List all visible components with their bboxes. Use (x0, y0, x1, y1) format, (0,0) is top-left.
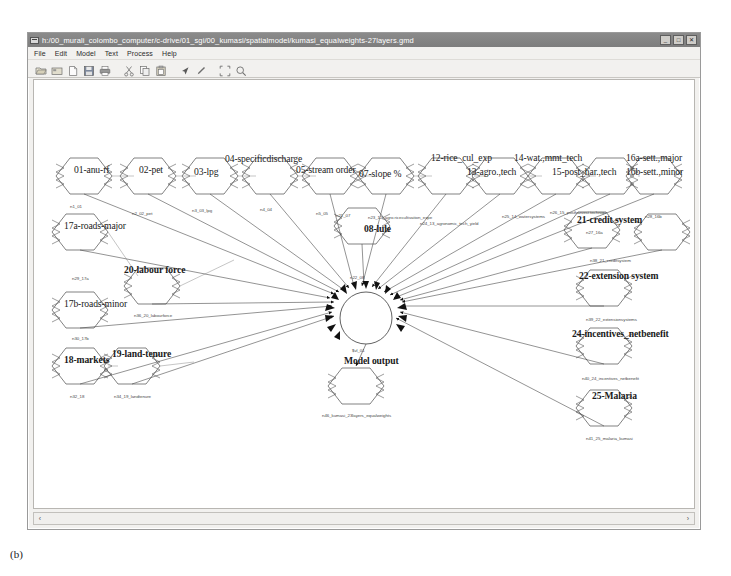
node-id-04: n4_04 (260, 207, 272, 212)
pen-icon[interactable] (195, 63, 207, 75)
model-output-label: Model output (344, 355, 399, 366)
node-label-17a: 17a-roads-major (64, 220, 126, 231)
save-icon[interactable] (83, 63, 95, 75)
node-id-02: n2_02_pet (132, 211, 152, 216)
node-id-15: n26_15_postharvest.techniqu (550, 210, 606, 215)
zoom-icon[interactable] (235, 63, 247, 75)
diagram-surface[interactable]: 01-anu-rf 02-pet 03-lpg 04-specificdisch… (34, 80, 694, 508)
node-id-16a: n27_16a (586, 230, 603, 235)
menu-item-help[interactable]: Help (162, 50, 177, 57)
node-label-05: 05-stream order (296, 164, 356, 175)
node-id-08: n22_08 (350, 275, 364, 280)
node-label-22: 22-extension system (579, 270, 658, 281)
scroll-right-arrow[interactable]: › (682, 515, 694, 522)
node-id-17a: n29_17a (72, 276, 89, 281)
copy-icon[interactable] (139, 63, 151, 75)
menu-bar: File Edit Model Text Process Help (28, 47, 700, 60)
node-id-18: n32_18 (70, 394, 84, 399)
application-window-icon (30, 36, 39, 45)
node-label-13: 13-agro.,tech (467, 166, 516, 177)
node-id-24: n40_24_incentives_netbenefit (582, 376, 639, 381)
node-label-16a: 16a-sett.,major (626, 152, 682, 163)
hub-node-label: $vl_01 (352, 348, 365, 353)
node-id-21: n38_21_creditsystem (590, 258, 631, 263)
cut-icon[interactable] (123, 63, 135, 75)
application-window: h:/00_murali_colombo_computer/c-drive/01… (27, 32, 701, 530)
node-label-24: 24-incentives_netbenefit (572, 328, 669, 339)
node-label-03: 03-lpg (194, 166, 218, 177)
node-id-05: n5_05 (316, 211, 328, 216)
menu-item-file[interactable]: File (34, 50, 46, 57)
toolbar (28, 60, 700, 78)
node-label-21: 21-credit system (577, 214, 642, 225)
pointer-arrow-icon[interactable] (179, 63, 191, 75)
node-label-01: 01-anu-rf (74, 164, 109, 175)
node-label-12: 12-rice_cul_exp (431, 152, 492, 163)
node-id-19: n34_19_landtenure (114, 394, 151, 399)
menu-item-edit[interactable]: Edit (55, 50, 67, 57)
diagram-graphics (34, 80, 695, 508)
print-icon[interactable] (99, 63, 111, 75)
new-document-icon[interactable] (67, 63, 79, 75)
title-bar[interactable]: h:/00_murali_colombo_computer/c-drive/01… (28, 33, 700, 47)
horizontal-scrollbar[interactable]: ‹ › (33, 512, 695, 525)
node-id-16b: n28_16b (645, 214, 662, 219)
node-id-20: n36_20_labourforce (134, 313, 172, 318)
figure-caption: (b) (10, 548, 23, 560)
node-id-13: n24_13_agronomic_tech_yield (420, 221, 478, 226)
node-label-20: 20-labour force (124, 264, 185, 275)
node-id-12: n23_12_agro.ricecultivation_expe (368, 215, 432, 220)
node-label-14: 14-wat.,mmt_tech (514, 152, 582, 163)
open-folder-icon[interactable] (35, 63, 47, 75)
menu-item-process[interactable]: Process (127, 50, 153, 57)
node-id-17b: n30_17b (72, 336, 89, 341)
node-label-02: 02-pet (139, 164, 163, 175)
node-label-08: 08-lule (364, 223, 391, 234)
minimize-button[interactable]: _ (660, 35, 671, 45)
menu-item-model[interactable]: Model (76, 50, 96, 57)
node-label-04: 04-specificdischarge (225, 153, 302, 164)
node-id-03: n3_03_lpg (192, 208, 212, 213)
node-id-25: n41_25_malaria_kumasi (586, 436, 633, 441)
maximize-button[interactable]: □ (673, 35, 684, 45)
scroll-left-arrow[interactable]: ‹ (34, 515, 46, 522)
paste-icon[interactable] (155, 63, 167, 75)
node-label-07: 07-slope % (359, 168, 401, 179)
model-output-id: n46_kumasi_23layers_equalweights (322, 413, 391, 418)
close-button[interactable]: ✕ (686, 35, 697, 45)
node-label-17b: 17b-roads-minor (64, 298, 127, 309)
figure-page: h:/00_murali_colombo_computer/c-drive/01… (0, 0, 731, 576)
fit-to-window-icon[interactable] (219, 63, 231, 75)
menu-item-text[interactable]: Text (105, 50, 118, 57)
node-id-01: n1_01 (70, 204, 82, 209)
node-label-18: 18-markets (64, 354, 109, 365)
node-id-22: n39_22_extensionsystems (586, 317, 637, 322)
node-label-25: 25-Malaria (592, 390, 637, 401)
node-id-14: n25_14_watersystems (502, 214, 545, 219)
node-id-07: n21_07 (336, 213, 350, 218)
node-label-16b: 16b-sett.,minor (626, 166, 683, 177)
node-label-19: 19-land-tenure (112, 348, 171, 359)
window-controls: _ □ ✕ (660, 35, 698, 45)
diagram-canvas[interactable]: 01-anu-rf 02-pet 03-lpg 04-specificdisch… (33, 79, 695, 509)
node-label-15: 15-post_har.,tech (552, 166, 616, 177)
window-title: h:/00_murali_colombo_computer/c-drive/01… (42, 36, 660, 45)
hub-node (340, 292, 392, 344)
open-recent-icon[interactable] (51, 63, 63, 75)
